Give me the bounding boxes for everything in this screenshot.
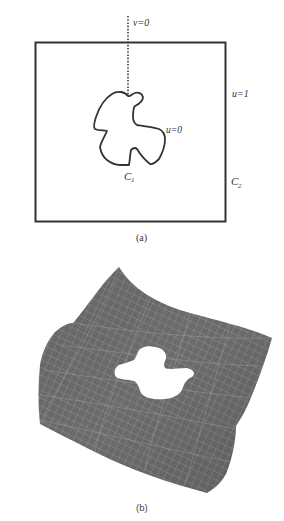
label-c1: C 1 — [124, 170, 135, 184]
svg-text:2: 2 — [238, 182, 242, 190]
svg-text:1: 1 — [131, 176, 135, 184]
label-u0: u=0 — [166, 125, 182, 135]
caption-b: (b) — [136, 502, 148, 513]
caption-a: (a) — [136, 232, 147, 244]
figure-canvas: v=0 u=1 u=0 C 1 C 2 (a) — [0, 0, 284, 521]
label-v0: v=0 — [133, 17, 149, 28]
inner-boundary-c1 — [94, 92, 165, 165]
figure-b-surface — [39, 267, 273, 493]
label-u1: u=1 — [232, 88, 249, 99]
outer-boundary-c2 — [36, 43, 226, 222]
label-c2: C 2 — [231, 175, 242, 190]
figure-a: v=0 u=1 u=0 C 1 C 2 (a) — [36, 16, 249, 244]
